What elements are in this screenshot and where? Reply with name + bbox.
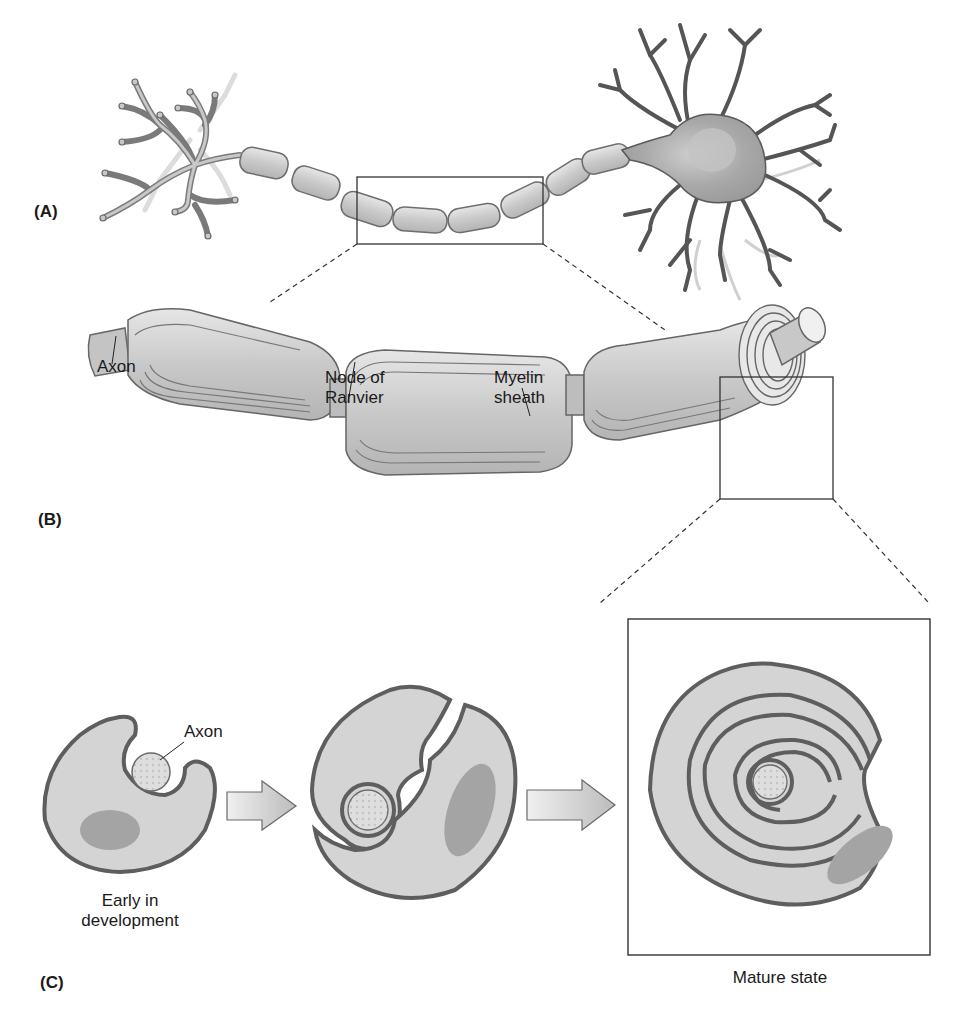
label-node-of-ranvier: Node of Ranvier: [325, 368, 385, 408]
stage-intermediate: [312, 687, 515, 898]
arrow-2: [527, 780, 615, 830]
label-axon-b: Axon: [97, 357, 136, 377]
nucleus: [80, 810, 140, 850]
label-myelin-sheath: Myelin sheath: [494, 368, 545, 408]
panel-label-c: (C): [40, 973, 64, 993]
label-myelin-line2: sheath: [494, 388, 545, 408]
zoom-line-b-left: [600, 499, 720, 603]
axon-cross-section: [753, 765, 787, 799]
myelinated-axon: [88, 304, 830, 475]
neuron-dendrites-left: [100, 75, 240, 239]
label-early-line1: Early in: [55, 891, 205, 911]
neuron-cell-body: [600, 25, 840, 300]
label-early-line2: development: [55, 911, 205, 931]
panel-label-b: (B): [38, 510, 62, 530]
label-mature-state: Mature state: [700, 968, 860, 988]
nucleus: [688, 128, 736, 172]
panel-label-a: (A): [34, 202, 58, 222]
label-myelin-line1: Myelin: [494, 368, 545, 388]
zoom-line-b-right: [833, 499, 928, 602]
label-axon-c: Axon: [184, 722, 223, 742]
neuron-axon-segments: [238, 142, 632, 235]
label-node-line2: Ranvier: [325, 388, 385, 408]
axon-cross-section: [348, 790, 388, 830]
label-early-in-development: Early in development: [55, 891, 205, 931]
zoom-line-a-left: [270, 244, 357, 302]
arrow-1: [227, 781, 296, 830]
neuron-diagram: [0, 0, 968, 1017]
zoom-line-a-right: [543, 244, 665, 330]
axon-cross-section: [132, 753, 170, 791]
label-node-line1: Node of: [325, 368, 385, 388]
